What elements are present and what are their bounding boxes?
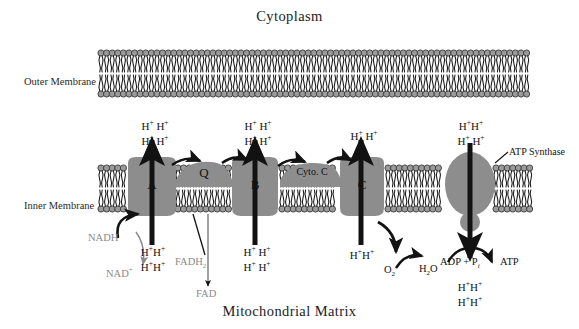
- atp-synthase-leader-line: [495, 152, 508, 163]
- adp-pi-label: ADP + Pi: [440, 256, 480, 270]
- o2-label: O2: [384, 264, 395, 278]
- proton-symbol: H+: [141, 261, 153, 273]
- proton-pump-arrows: [152, 140, 470, 258]
- proton-symbol: H+: [243, 246, 255, 258]
- proton-cluster-above-complex-c: H+ H+: [342, 127, 386, 142]
- nad-plus-text: NAD: [106, 268, 129, 279]
- electron-arrow-a-to-q: [172, 159, 200, 165]
- proton-cluster-below-complex-c: H+H+: [340, 246, 384, 261]
- proton-cluster-above-complex-b: H+ H+ H+ H+: [236, 117, 280, 147]
- h2o-o: O: [430, 263, 438, 274]
- electron-arrow-cytc-to-c: [327, 158, 351, 163]
- electron-arrow-q-to-b: [222, 158, 247, 163]
- proton-cluster-below-complex-a: H+H+ H+H+: [131, 243, 175, 273]
- h2o-label: H2O: [419, 263, 438, 277]
- proton-symbol: H+: [350, 130, 362, 142]
- complex-c-label: C: [340, 178, 384, 191]
- page-title-cytoplasm: Cytoplasm: [0, 8, 579, 25]
- proton-symbol: H+: [141, 120, 153, 132]
- cytochrome-c-label: Cyto. C: [284, 167, 340, 177]
- proton-symbol: H+: [471, 120, 483, 132]
- adp-pi-text: ADP + P: [440, 256, 478, 267]
- protein-complexes: [128, 152, 495, 232]
- outer-membrane-label: Outer Membrane: [24, 76, 96, 87]
- proton-symbol: H+: [259, 120, 271, 132]
- proton-symbol: H+: [153, 246, 165, 258]
- complex-q-label: Q: [186, 166, 222, 179]
- proton-cluster-below-atp-synthase: H+H+ H+H+: [447, 278, 493, 308]
- proton-symbol: H+: [458, 281, 470, 293]
- proton-cluster-below-complex-b: H+ H+ H+ H+: [234, 243, 280, 273]
- proton-symbol: H+: [470, 296, 482, 308]
- proton-symbol: H+: [365, 130, 377, 142]
- proton-symbol: H+: [153, 261, 165, 273]
- proton-symbol: H+: [459, 120, 471, 132]
- atp-synthase-label: ATP Synthase: [509, 146, 565, 157]
- proton-symbol: H+: [141, 135, 153, 147]
- proton-symbol: H+: [362, 249, 374, 261]
- proton-symbol: H+: [470, 281, 482, 293]
- diagram-canvas: Cytoplasm Mitochondrial Matrix Outer Mem…: [0, 0, 579, 329]
- outer-membrane-bilayer: [98, 50, 530, 97]
- proton-symbol: H+: [259, 135, 271, 147]
- proton-cluster-above-atp-synthase: H+H+ H+ H+: [448, 117, 494, 147]
- o2-subscript: 2: [392, 270, 396, 278]
- atp-synthase-f1-shape: [460, 212, 480, 232]
- proton-symbol: H+: [156, 120, 168, 132]
- nad-plus-charge: +: [129, 266, 133, 274]
- proton-symbol: H+: [350, 249, 362, 261]
- proton-symbol: H+: [244, 120, 256, 132]
- inner-membrane-label: Inner Membrane: [24, 200, 94, 211]
- proton-symbol: H+: [458, 296, 470, 308]
- nadh-label: NADH: [88, 232, 118, 243]
- proton-symbol: H+: [141, 246, 153, 258]
- h2o-h: H: [419, 263, 427, 274]
- atp-label: ATP: [500, 256, 519, 267]
- fadh2-text: FADH: [175, 256, 203, 267]
- proton-symbol: H+: [258, 246, 270, 258]
- complex-b-label: B: [232, 178, 278, 191]
- fadh2-leader-line: [193, 214, 205, 255]
- proton-symbol: H+: [243, 261, 255, 273]
- atp-synthase-fo-shape: [445, 152, 495, 216]
- proton-cluster-above-complex-a: H+ H+ H+ H+: [133, 117, 177, 147]
- proton-symbol: H+: [244, 135, 256, 147]
- fadh2-subscript: 2: [203, 262, 207, 270]
- complex-a-label: A: [128, 178, 176, 191]
- nadh-to-complex-a-arrow: [117, 214, 138, 238]
- proton-symbol: H+: [457, 135, 469, 147]
- fad-label: FAD: [196, 288, 216, 299]
- proton-symbol: H+: [472, 135, 484, 147]
- proton-symbol: H+: [156, 135, 168, 147]
- o2-text: O: [384, 264, 392, 275]
- proton-symbol: H+: [258, 261, 270, 273]
- nad-plus-label: NAD+: [106, 266, 133, 279]
- fadh2-label: FADH2: [175, 256, 206, 270]
- adp-pi-subscript: i: [478, 262, 480, 270]
